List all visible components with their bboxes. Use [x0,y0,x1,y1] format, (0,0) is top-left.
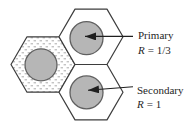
secondary-label: Secondary [137,84,184,96]
secondary-r-equation: R= 1 [136,98,161,110]
secondary-r-symbol: R [136,98,144,110]
secondary-cell-circle [70,76,103,109]
stippled-cell-circle [25,49,57,81]
primary-label: Primary [138,29,174,41]
primary-r-equation: R= 1/3 [137,44,171,56]
primary-cell-circle [70,22,103,55]
secondary-r-value: = 1 [147,98,161,110]
reuse-diagram: Primary R= 1/3 Secondary R= 1 [0,0,191,128]
primary-r-value: = 1/3 [148,44,172,56]
primary-r-symbol: R [137,44,145,56]
figure-canvas: Primary R= 1/3 Secondary R= 1 [0,0,191,128]
